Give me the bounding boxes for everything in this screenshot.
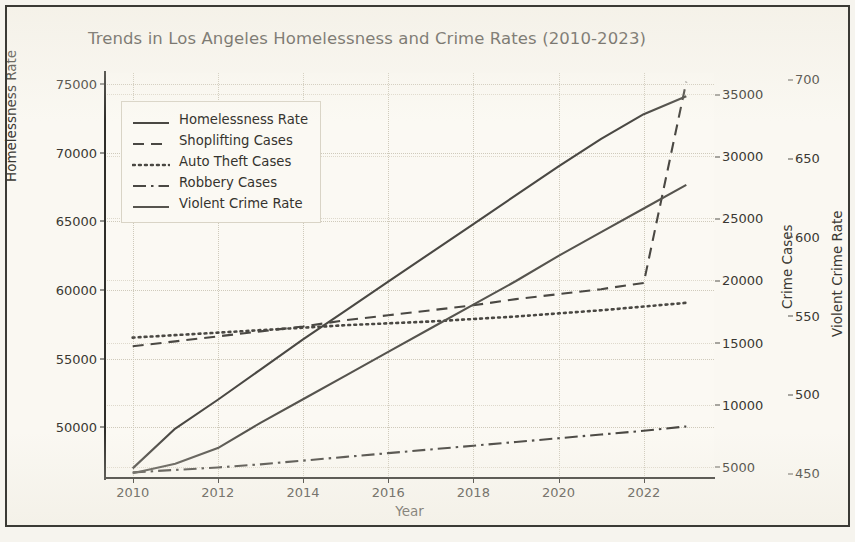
legend-label: Auto Theft Cases <box>179 154 291 169</box>
x-tick-label: 2012 <box>201 485 234 500</box>
y-tick-mark-left <box>100 427 105 428</box>
legend-item[interactable]: Auto Theft Cases <box>132 151 308 172</box>
y-tick-mark-left <box>100 221 105 222</box>
y-tick-label-crime: 30000 <box>722 149 763 164</box>
legend-item[interactable]: Violent Crime Rate <box>132 193 308 214</box>
y-tick-label-left: 75000 <box>56 76 97 91</box>
legend-swatch-solid-icon <box>132 198 170 210</box>
y-tick-label-violent: 550 <box>795 308 820 323</box>
image-frame: Trends in Los Angeles Homelessness and C… <box>5 5 850 527</box>
y-tick-label-violent: 450 <box>795 466 820 481</box>
plot-area: 500005500060000650007000075000 500010000… <box>105 73 714 478</box>
y-axis-label-violent-crime-rate: Violent Crime Rate <box>829 210 845 337</box>
y-tick-label-left: 70000 <box>56 145 97 160</box>
x-tick-mark <box>388 478 389 483</box>
chart-title: Trends in Los Angeles Homelessness and C… <box>7 29 727 48</box>
x-tick-label: 2014 <box>286 485 319 500</box>
legend-label: Robbery Cases <box>179 175 277 190</box>
x-tick-label: 2016 <box>372 485 405 500</box>
legend-swatch-dashed-icon <box>132 135 170 147</box>
x-tick-mark <box>303 478 304 483</box>
y-tick-label-crime: 25000 <box>722 211 763 226</box>
legend-item[interactable]: Homelessness Rate <box>132 109 308 130</box>
legend-swatch-solid-icon <box>132 114 170 126</box>
series-line-violent-crime-rate <box>133 185 687 473</box>
y-tick-label-crime: 35000 <box>722 87 763 102</box>
legend-swatch-dashdot-icon <box>132 177 170 189</box>
y-tick-label-left: 50000 <box>56 420 97 435</box>
legend-swatch-dotted-icon <box>132 156 170 168</box>
y-tick-label-violent: 600 <box>795 229 820 244</box>
y-tick-mark-left <box>100 358 105 359</box>
legend-label: Violent Crime Rate <box>179 196 303 211</box>
y-tick-label-left: 60000 <box>56 282 97 297</box>
x-tick-label: 2010 <box>116 485 149 500</box>
y-tick-label-violent: 500 <box>795 387 820 402</box>
x-tick-mark <box>133 478 134 483</box>
y-tick-label-violent: 650 <box>795 151 820 166</box>
x-tick-mark <box>473 478 474 483</box>
series-line-auto-theft-cases <box>133 303 687 338</box>
x-tick-mark <box>559 478 560 483</box>
x-tick-label: 2020 <box>542 485 575 500</box>
x-tick-mark <box>218 478 219 483</box>
screenshot-page: Trends in Los Angeles Homelessness and C… <box>0 0 855 542</box>
y-axis-label-left: Homelessness Rate <box>3 50 19 182</box>
x-axis-label: Year <box>105 503 714 519</box>
y-tick-label-crime: 10000 <box>722 397 763 412</box>
y-tick-mark-left <box>100 152 105 153</box>
y-tick-mark-left <box>100 289 105 290</box>
x-tick-mark <box>644 478 645 483</box>
y-tick-mark-left <box>100 83 105 84</box>
x-tick-label: 2018 <box>457 485 490 500</box>
legend-item[interactable]: Robbery Cases <box>132 172 308 193</box>
legend-item[interactable]: Shoplifting Cases <box>132 130 308 151</box>
y-tick-label-left: 65000 <box>56 214 97 229</box>
x-tick-label: 2022 <box>627 485 660 500</box>
y-tick-label-crime: 20000 <box>722 273 763 288</box>
legend-label: Homelessness Rate <box>179 112 308 127</box>
legend-label: Shoplifting Cases <box>179 133 293 148</box>
y-tick-label-crime: 15000 <box>722 335 763 350</box>
y-tick-label-violent: 700 <box>795 72 820 87</box>
y-tick-label-crime: 5000 <box>722 459 755 474</box>
chart-legend: Homelessness RateShoplifting CasesAuto T… <box>121 101 321 223</box>
chart-figure: Trends in Los Angeles Homelessness and C… <box>7 7 852 529</box>
y-tick-label-left: 55000 <box>56 351 97 366</box>
